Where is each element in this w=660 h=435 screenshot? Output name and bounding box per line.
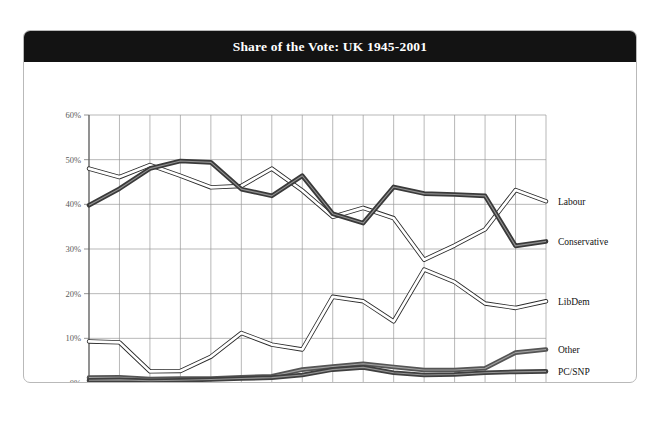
y-axis-tick-label: 0% xyxy=(70,378,81,383)
series-label-conservative: Conservative xyxy=(558,237,608,247)
series-label-other: Other xyxy=(558,345,580,355)
page-root: Share of the Vote: UK 1945-2001 0%10%20%… xyxy=(0,0,660,435)
y-axis-tick-label: 60% xyxy=(65,110,81,120)
chart-title-bar: Share of the Vote: UK 1945-2001 xyxy=(24,31,636,62)
series-label-pcsnp: PC/SNP xyxy=(558,367,590,377)
y-axis-tick-label: 40% xyxy=(65,199,81,209)
y-axis-tick-label: 20% xyxy=(65,289,81,299)
series-line-libdem xyxy=(89,270,546,372)
y-axis-tick-label: 30% xyxy=(65,244,81,254)
y-axis-tick-label: 10% xyxy=(65,333,81,343)
series-label-labour: Labour xyxy=(558,197,586,207)
line-chart: 0%10%20%30%40%50%60%19451950195119551959… xyxy=(24,62,637,383)
series-label-libdem: LibDem xyxy=(558,297,590,307)
series-outline-labour xyxy=(89,165,546,260)
page-title: Share of the Vote: UK 1945-2001 xyxy=(233,39,428,55)
chart-card: Share of the Vote: UK 1945-2001 0%10%20%… xyxy=(23,30,637,383)
y-axis-tick-label: 50% xyxy=(65,155,81,165)
plot-area: 0%10%20%30%40%50%60%19451950195119551959… xyxy=(24,62,637,383)
series-line-labour xyxy=(89,165,546,260)
